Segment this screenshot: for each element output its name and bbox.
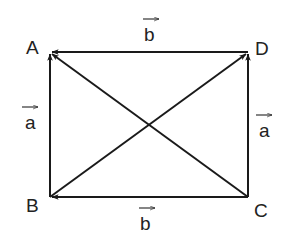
point-label-a: A [26, 37, 39, 58]
vector-label-top: b [143, 19, 159, 45]
point-label-c: C [254, 200, 268, 221]
point-label-d: D [255, 38, 269, 59]
vector-label-top-text: b [144, 24, 155, 45]
vector-label-right-text: a [259, 120, 270, 141]
edge-c-to-a [52, 54, 248, 197]
edge-b-to-d [50, 54, 246, 197]
vector-label-right: a [256, 115, 272, 141]
vector-label-bottom-text: b [140, 213, 151, 234]
vector-label-left: a [22, 107, 38, 133]
vector-diagram: A D B C b a a b [0, 0, 286, 242]
point-label-b: B [26, 195, 39, 216]
vector-label-bottom: b [139, 208, 155, 234]
vector-label-left-text: a [25, 112, 36, 133]
